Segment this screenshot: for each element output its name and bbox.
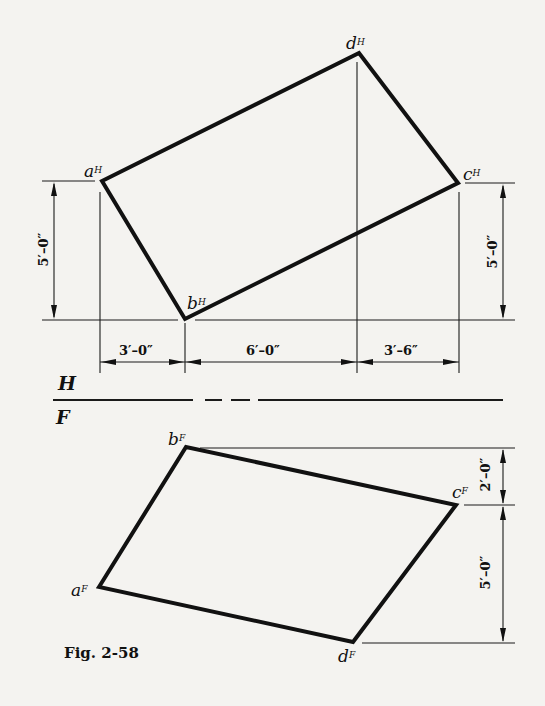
dimension-text-6-0: 6′–0″ — [246, 344, 280, 357]
arrowhead-up-icon — [51, 182, 57, 196]
plane-label-h: H — [58, 374, 76, 393]
dimension-text-3-6: 3′–6″ — [384, 344, 418, 357]
point-letter: b — [168, 429, 179, 449]
arrowhead-down-icon — [500, 628, 506, 642]
point-superscript: F — [179, 433, 185, 443]
dimension-text-left: 5′–0″ — [37, 228, 50, 272]
parallelogram-front-view — [99, 447, 456, 642]
point-label-c-f: cF — [452, 484, 468, 501]
arrowhead-down-icon — [500, 490, 506, 504]
point-letter: b — [187, 293, 198, 313]
point-label-b-f: bF — [168, 431, 185, 448]
arrowhead-right-icon — [443, 359, 458, 365]
arrowhead-left-icon — [101, 359, 116, 365]
arrowhead-right-icon — [169, 359, 184, 365]
point-label-b-h: bH — [187, 295, 206, 312]
arrowhead-right-icon — [341, 359, 356, 365]
rectangle-top-view — [102, 53, 458, 319]
point-superscript: F — [462, 486, 468, 496]
plane-label-f: F — [56, 408, 70, 427]
arrowhead-left-icon — [358, 359, 373, 365]
arrowhead-up-icon — [500, 506, 506, 520]
arrowhead-left-icon — [186, 359, 201, 365]
point-superscript: F — [349, 650, 355, 660]
point-superscript: H — [94, 165, 102, 175]
dimension-text-3-0: 3′–0″ — [119, 344, 153, 357]
front-view — [99, 447, 515, 643]
point-letter: a — [71, 580, 81, 600]
point-superscript: H — [473, 168, 481, 178]
dimension-text-lower: 5′–0″ — [479, 551, 492, 595]
point-label-c-h: cH — [463, 166, 480, 183]
figure-caption: Fig. 2-58 — [64, 646, 139, 661]
point-superscript: H — [198, 297, 206, 307]
arrowhead-up-icon — [500, 449, 506, 463]
point-letter: c — [452, 482, 462, 502]
arrowhead-down-icon — [500, 305, 506, 319]
point-label-a-f: aF — [71, 582, 87, 599]
arrowhead-down-icon — [51, 305, 57, 319]
arrowhead-up-icon — [500, 184, 506, 198]
dimension-text-upper: 2′–0″ — [479, 453, 492, 497]
point-letter: d — [346, 33, 357, 53]
point-superscript: F — [81, 584, 87, 594]
top-view — [42, 53, 515, 373]
point-letter: d — [338, 646, 349, 666]
point-label-a-h: aH — [84, 163, 102, 180]
dimension-text-right: 5′–0″ — [486, 230, 499, 274]
point-letter: a — [84, 161, 94, 181]
point-superscript: H — [357, 37, 365, 47]
point-label-d-h: dH — [346, 35, 365, 52]
point-label-d-f: dF — [338, 648, 355, 665]
point-letter: c — [463, 164, 473, 184]
